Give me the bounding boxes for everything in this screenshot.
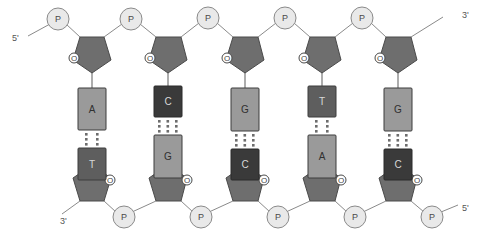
bond-sugar2-pb2: [181, 201, 193, 212]
sugar-top-2: O: [145, 37, 187, 73]
oxygen-label-bottom-4: O: [338, 176, 344, 185]
phosphate-label-top-4: P: [282, 13, 288, 23]
bond-sugar3-p4: [258, 23, 276, 37]
base-top-1-letter: A: [89, 104, 96, 115]
bottom-phosphate-group: P P P P P: [113, 206, 443, 228]
sugar-top-1: O: [69, 37, 111, 73]
hydrogen-bonds-3: [235, 134, 255, 147]
phosphate-bottom-4: P: [344, 206, 366, 228]
bond-sugar2-p3: [181, 23, 199, 37]
sugar-top-5: O: [375, 37, 417, 73]
sugar-top-4: O: [299, 37, 341, 73]
base-pair-1: A T: [78, 88, 106, 180]
phosphate-bottom-3: P: [267, 206, 289, 228]
phosphate-label-bottom-2: P: [198, 212, 204, 222]
oxygen-label-top-4: O: [301, 54, 307, 63]
bond-sugar3-pb3: [258, 201, 270, 212]
bond-sugar4-p5: [335, 23, 353, 37]
base-pair-5: G C: [384, 88, 412, 180]
base-bottom-2-letter: G: [164, 151, 172, 162]
phosphate-bottom-5: P: [421, 206, 443, 228]
bond-p3-sugar3: [217, 23, 233, 37]
phosphate-label-top-1: P: [55, 14, 61, 24]
dna-diagram-canvas: O O O O O: [0, 0, 485, 237]
oxygen-label-top-5: O: [377, 54, 383, 63]
top-sugar-group: O O O O O: [69, 37, 417, 73]
hydrogen-bonds-2: [158, 120, 178, 133]
bond-pb2-sugar3: [209, 201, 233, 212]
bond-sugar1-pb1: [104, 201, 116, 212]
label-3-prime-top-right: 3': [462, 10, 469, 20]
hydrogen-bonds-5: [388, 134, 408, 147]
sugar-top-3: O: [222, 37, 264, 73]
oxygen-label-bottom-5: O: [414, 176, 420, 185]
base-top-5-letter: G: [394, 104, 402, 115]
dna-structure-diagram: O O O O O: [0, 0, 485, 237]
base-top-2-letter: C: [164, 96, 171, 107]
phosphate-label-top-3: P: [205, 13, 211, 23]
bond-pb3-sugar4: [286, 201, 310, 212]
oxygen-label-bottom-2: O: [184, 176, 190, 185]
oxygen-label-top-2: O: [147, 54, 153, 63]
base-bottom-5-letter: C: [394, 159, 401, 170]
phosphate-bottom-2: P: [190, 206, 212, 228]
phosphate-top-3: P: [197, 7, 219, 29]
base-bottom-1-letter: T: [89, 159, 95, 170]
end-line-bottom-right: [441, 205, 458, 212]
end-line-top-right: [411, 17, 443, 37]
phosphate-top-1: P: [47, 8, 69, 30]
base-pair-2: C G: [154, 86, 182, 178]
base-top-3-letter: G: [241, 104, 249, 115]
phosphate-label-bottom-1: P: [121, 212, 127, 222]
phosphate-label-bottom-4: P: [352, 212, 358, 222]
oxygen-label-top-3: O: [224, 54, 230, 63]
phosphate-label-top-2: P: [128, 14, 134, 24]
backbone-lines-top: [28, 17, 443, 37]
oxygen-label-top-1: O: [71, 54, 77, 63]
bond-pb4-sugar5: [363, 201, 386, 212]
hydrogen-bonds-1: [85, 133, 99, 146]
bond-sugar1-p2: [104, 24, 122, 37]
hydrogen-bonds-4: [315, 120, 329, 133]
phosphate-top-4: P: [274, 7, 296, 29]
top-phosphate-group: P P P P P: [47, 7, 373, 30]
base-top-4-letter: T: [319, 96, 325, 107]
bond-p5-sugar5: [371, 23, 386, 37]
bond-p2-sugar2: [140, 24, 156, 37]
bond-sugar4-pb4: [335, 201, 347, 212]
base-bottom-4-letter: A: [319, 151, 326, 162]
phosphate-top-2: P: [120, 8, 142, 30]
oxygen-label-bottom-3: O: [261, 176, 267, 185]
base-bottom-3-letter: C: [241, 159, 248, 170]
base-pair-3: G C: [231, 88, 259, 180]
label-5-prime-top-left: 5': [12, 33, 19, 43]
phosphate-label-bottom-5: P: [429, 212, 435, 222]
bond-pb1-sugar2: [132, 201, 156, 212]
phosphate-label-bottom-3: P: [275, 212, 281, 222]
end-line-bottom-left: [62, 201, 80, 214]
label-3-prime-bottom-left: 3': [60, 216, 67, 226]
end-line-top-left: [28, 24, 50, 36]
phosphate-bottom-1: P: [113, 206, 135, 228]
oxygen-label-bottom-1: O: [107, 176, 113, 185]
bond-sugar5-pb5: [411, 201, 424, 212]
phosphate-label-top-5: P: [359, 13, 365, 23]
label-5-prime-bottom-right: 5': [462, 203, 469, 213]
bond-p4-sugar4: [294, 23, 310, 37]
phosphate-top-5: P: [351, 7, 373, 29]
bond-p1-sugar1: [66, 24, 80, 37]
base-pair-4: T A: [308, 86, 336, 178]
